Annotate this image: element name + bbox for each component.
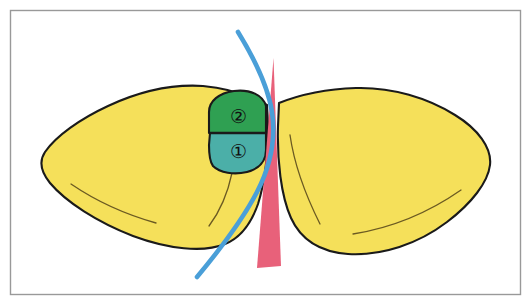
figure-root: ② ① bbox=[0, 0, 531, 305]
region-two-label: ② bbox=[230, 106, 247, 127]
region-one-label: ① bbox=[230, 141, 247, 162]
diagram-canvas: ② ① bbox=[0, 0, 531, 305]
